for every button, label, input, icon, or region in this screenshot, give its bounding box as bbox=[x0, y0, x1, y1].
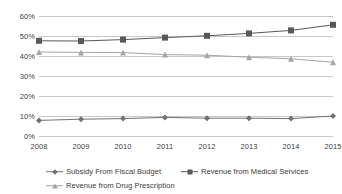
x-axis-tick-label: 2015 bbox=[324, 142, 341, 151]
x-axis-tick-label: 2014 bbox=[282, 142, 299, 151]
data-point-marker bbox=[330, 22, 336, 28]
legend-label: Revenue from Medical Services bbox=[201, 167, 308, 176]
legend-item[interactable]: Revenue from Medical Services bbox=[181, 167, 308, 176]
x-axis-tick-label: 2008 bbox=[30, 142, 47, 151]
y-axis-tick-label: 30% bbox=[20, 72, 35, 81]
data-point-marker bbox=[36, 38, 42, 44]
x-axis-tick-label: 2012 bbox=[198, 142, 215, 151]
y-axis-tick-label: 20% bbox=[20, 91, 35, 100]
legend-marker-icon bbox=[46, 168, 63, 176]
x-axis-tick-label: 2010 bbox=[114, 142, 131, 151]
y-axis-tick-label: 60% bbox=[20, 12, 35, 21]
legend-marker-icon bbox=[181, 168, 198, 176]
y-axis-tick-label: 10% bbox=[20, 112, 35, 121]
legend-item[interactable]: Subsidy From Fiscal Budget bbox=[46, 167, 181, 176]
legend-marker-icon bbox=[46, 182, 63, 190]
data-point-marker bbox=[78, 116, 84, 122]
x-axis-tick-label: 2009 bbox=[72, 142, 89, 151]
data-point-marker bbox=[204, 33, 210, 39]
series-2 bbox=[36, 49, 336, 65]
series-0 bbox=[36, 113, 336, 123]
data-point-marker bbox=[36, 117, 42, 123]
data-point-marker bbox=[246, 30, 252, 36]
legend-label: Subsidy From Fiscal Budget bbox=[66, 167, 161, 176]
data-point-marker bbox=[246, 115, 252, 121]
data-point-marker bbox=[162, 35, 168, 41]
y-axis-tick-label: 40% bbox=[20, 51, 35, 60]
plot-area: 0%10%20%30%40%50%60% 2008200920102011201… bbox=[39, 16, 333, 136]
series-plot bbox=[39, 16, 333, 136]
data-point-marker bbox=[288, 27, 294, 33]
data-point-marker bbox=[162, 114, 168, 120]
data-point-marker bbox=[120, 116, 126, 122]
y-axis-tick-label: 0% bbox=[24, 132, 35, 141]
data-point-marker bbox=[288, 116, 294, 122]
x-axis-tick-label: 2011 bbox=[157, 142, 174, 151]
data-point-marker bbox=[330, 113, 336, 119]
legend-label: Revenue from Drug Prescription bbox=[66, 181, 175, 190]
legend-item[interactable]: Revenue from Drug Prescription bbox=[46, 181, 335, 190]
x-axis-tick-label: 2013 bbox=[240, 142, 257, 151]
series-1 bbox=[36, 22, 336, 44]
y-axis-tick-label: 50% bbox=[20, 31, 35, 40]
data-point-marker bbox=[78, 38, 84, 44]
data-point-marker bbox=[204, 115, 210, 121]
data-point-marker bbox=[120, 37, 126, 43]
grid-line bbox=[39, 136, 333, 137]
chart-legend: Subsidy From Fiscal BudgetRevenue from M… bbox=[46, 167, 335, 190]
